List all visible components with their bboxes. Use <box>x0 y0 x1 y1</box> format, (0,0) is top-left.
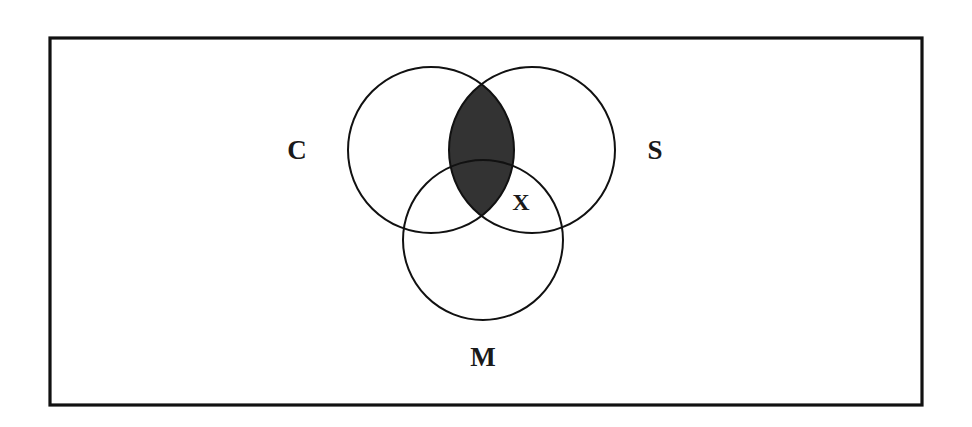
label-circle-c: C <box>287 135 307 165</box>
mark-x: X <box>512 189 530 215</box>
label-circle-m: M <box>470 342 495 372</box>
venn-diagram: C S M X <box>0 0 972 427</box>
figure-canvas: C S M X <box>0 0 972 427</box>
label-circle-s: S <box>647 135 662 165</box>
